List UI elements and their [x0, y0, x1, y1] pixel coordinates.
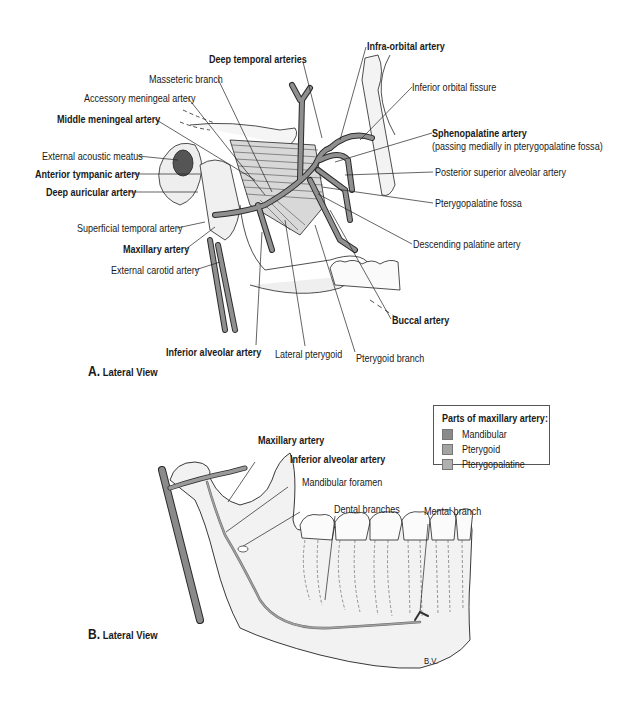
- label-inferior-orbital-fissure: Inferior orbital fissure: [412, 81, 496, 93]
- label-inferior-alveolar-artery-a: Inferior alveolar artery: [166, 346, 261, 358]
- label-buccal-artery: Buccal artery: [392, 314, 449, 326]
- label-external-acoustic-meatus: External acoustic meatus: [42, 150, 143, 162]
- label-external-carotid-artery: External carotid artery: [111, 264, 199, 276]
- label-superficial-temporal-artery: Superficial temporal artery: [77, 222, 182, 234]
- figure-a-letter: A.: [88, 363, 100, 379]
- label-anterior-tympanic-artery: Anterior tympanic artery: [35, 168, 140, 180]
- label-inferior-alveolar-artery-b: Inferior alveolar artery: [290, 453, 385, 465]
- figure-b-view-label: Lateral View: [103, 629, 158, 641]
- label-masseteric-branch: Masseteric branch: [149, 73, 223, 85]
- figure-b-letter: B.: [88, 626, 100, 642]
- label-posterior-superior-alveolar-artery: Posterior superior alveolar artery: [435, 166, 566, 178]
- swatch-pterygoid: [442, 444, 453, 455]
- label-sphenopalatine-note: (passing medially in pterygopalatine fos…: [432, 140, 603, 152]
- label-infra-orbital-artery: Infra-orbital artery: [367, 40, 445, 52]
- figure-b-caption: B. Lateral View: [88, 626, 158, 642]
- label-maxillary-artery-a: Maxillary artery: [123, 243, 189, 255]
- artist-signature: B.V.: [424, 655, 438, 667]
- legend-title: Parts of maxillary artery:: [442, 412, 548, 424]
- label-maxillary-artery-b: Maxillary artery: [258, 434, 324, 446]
- label-sphenopalatine-artery: Sphenopalatine artery: [432, 127, 527, 139]
- legend-label-pterygopalatine: Pterygopalatine: [462, 458, 525, 470]
- legend-label-pterygoid: Pterygoid: [462, 443, 500, 455]
- figure-a-caption: A. Lateral View: [88, 363, 158, 379]
- label-mandibular-foramen: Mandibular foramen: [302, 476, 382, 488]
- label-accessory-meningeal-artery: Accessory meningeal artery: [84, 92, 195, 104]
- label-lateral-pterygoid: Lateral pterygoid: [275, 348, 342, 360]
- label-pterygoid-branch: Pterygoid branch: [356, 352, 424, 364]
- label-mental-branch: Mental branch: [424, 505, 481, 517]
- legend-box: Parts of maxillary artery: Mandibular Pt…: [433, 405, 550, 465]
- label-middle-meningeal-artery: Middle meningeal artery: [57, 113, 160, 125]
- figure-a-view-label: Lateral View: [103, 366, 158, 378]
- label-pterygopalatine-fossa: Pterygopalatine fossa: [435, 197, 522, 209]
- label-deep-temporal-arteries: Deep temporal arteries: [209, 53, 307, 65]
- swatch-pterygopalatine: [442, 459, 453, 470]
- label-dental-branches: Dental branches: [334, 503, 400, 515]
- label-descending-palatine-artery: Descending palatine artery: [413, 238, 520, 250]
- swatch-mandibular: [442, 429, 453, 440]
- label-deep-auricular-artery: Deep auricular artery: [46, 186, 136, 198]
- legend-label-mandibular: Mandibular: [462, 428, 507, 440]
